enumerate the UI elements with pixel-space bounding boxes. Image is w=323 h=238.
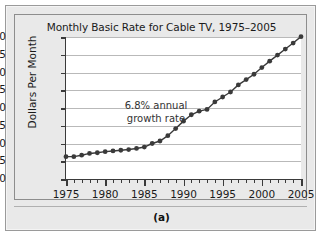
y-tick-label: 35 [0, 48, 6, 60]
data-point [126, 147, 131, 152]
x-tick-minor [270, 179, 271, 183]
x-tick-label: 1985 [122, 188, 166, 200]
chart-panel: Monthly Basic Rate for Cable TV, 1975–20… [14, 14, 307, 200]
x-tick-minor [137, 179, 138, 183]
x-tick-minor [97, 179, 98, 183]
growth-rate-annotation: 6.8% annual growth rate [104, 99, 208, 125]
x-tick-minor [285, 179, 286, 183]
data-point [118, 148, 123, 153]
x-tick-minor [176, 179, 177, 183]
x-tick-label: 2000 [240, 188, 284, 200]
figure-container: Monthly Basic Rate for Cable TV, 1975–20… [5, 5, 316, 231]
data-point [165, 133, 170, 138]
x-tick-minor [168, 179, 169, 183]
y-tick-label: 10 [0, 137, 6, 149]
x-tick-minor [82, 179, 83, 183]
y-tick-label: 0 [0, 172, 6, 184]
data-point [244, 77, 249, 82]
data-point [103, 149, 108, 154]
data-point [275, 53, 280, 58]
x-tick-minor [254, 179, 255, 183]
data-point [283, 47, 288, 52]
x-tick-label: 1990 [162, 188, 206, 200]
x-tick-minor [191, 179, 192, 183]
y-tick-label: 20 [0, 101, 6, 113]
x-tick-major [105, 179, 107, 186]
y-tick-label: 15 [0, 119, 6, 131]
x-tick-minor [293, 179, 294, 183]
data-point [267, 59, 272, 64]
data-point [158, 139, 163, 144]
x-tick-label: 2005 [279, 188, 323, 200]
series-markers [64, 34, 304, 159]
series-line [66, 37, 301, 157]
x-tick-minor [231, 179, 232, 183]
data-point [173, 126, 178, 131]
x-tick-minor [199, 179, 200, 183]
annotation-line-2: growth rate [104, 112, 208, 125]
plot-area: 0510152025303540 19751980198519901995200… [65, 37, 301, 180]
y-tick-label: 40 [0, 30, 6, 42]
data-point [220, 95, 225, 100]
x-tick-minor [278, 179, 279, 183]
x-tick-label: 1995 [201, 188, 245, 200]
data-point [87, 151, 92, 156]
x-tick-label: 1975 [44, 188, 88, 200]
data-point [212, 100, 217, 105]
data-point [236, 83, 241, 88]
x-tick-major [144, 179, 146, 186]
x-tick-minor [113, 179, 114, 183]
data-point [64, 154, 69, 159]
x-tick-minor [207, 179, 208, 183]
panel-divider [14, 206, 307, 207]
x-tick-major [223, 179, 225, 186]
x-tick-major [66, 179, 68, 186]
x-tick-minor [74, 179, 75, 183]
data-point [95, 150, 100, 155]
data-point [142, 145, 147, 150]
x-tick-minor [152, 179, 153, 183]
x-tick-minor [121, 179, 122, 183]
annotation-line-1: 6.8% annual [104, 99, 208, 112]
x-tick-label: 1980 [83, 188, 127, 200]
y-axis-label: Dollars Per Month [26, 12, 38, 152]
x-tick-minor [160, 179, 161, 183]
x-tick-major [301, 179, 303, 186]
y-tick-label: 30 [0, 66, 6, 78]
x-tick-minor [246, 179, 247, 183]
data-point [252, 72, 257, 77]
data-point [228, 90, 233, 95]
data-point [79, 153, 84, 158]
x-tick-minor [215, 179, 216, 183]
data-point [150, 141, 155, 146]
x-tick-minor [90, 179, 91, 183]
chart-title: Monthly Basic Rate for Cable TV, 1975–20… [15, 21, 308, 33]
data-point [111, 149, 116, 154]
y-tick-label: 25 [0, 83, 6, 95]
data-point [71, 154, 76, 159]
x-tick-minor [238, 179, 239, 183]
data-point [259, 65, 264, 70]
figure-caption: (a) [6, 211, 317, 223]
x-tick-major [262, 179, 264, 186]
x-tick-minor [129, 179, 130, 183]
x-tick-major [184, 179, 186, 186]
data-point [134, 146, 139, 151]
y-tick-label: 5 [0, 154, 6, 166]
data-point [299, 34, 304, 39]
data-point [291, 41, 296, 46]
